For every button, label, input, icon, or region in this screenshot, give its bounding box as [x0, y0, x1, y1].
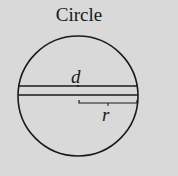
circle-outline — [18, 36, 138, 156]
radius-label: r — [102, 104, 110, 125]
circle-diagram: d r — [0, 0, 178, 176]
radius-bracket — [79, 100, 137, 103]
diameter-label: d — [71, 66, 81, 87]
